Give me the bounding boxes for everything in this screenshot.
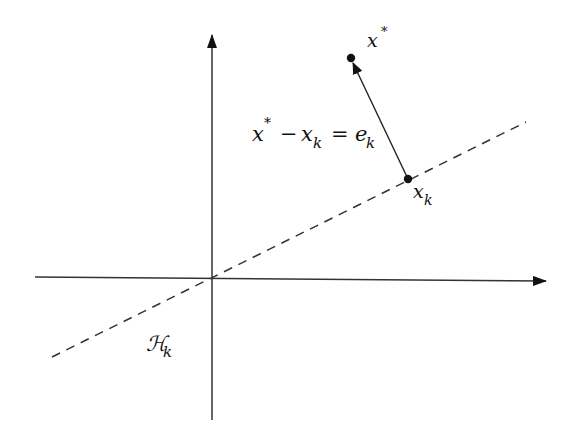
- iterate-label-base: x: [413, 180, 424, 202]
- solution-point-label: x *: [367, 24, 388, 51]
- iterate-point-label: x k: [413, 180, 432, 208]
- equation-xk-sub: k: [313, 134, 322, 152]
- hyperplane-dashed-line: [52, 122, 526, 357]
- hyperplane-label: ℋ k: [146, 332, 172, 361]
- equation-x: x: [252, 122, 264, 146]
- equation-star: *: [264, 115, 271, 131]
- iterate-label-sub: k: [424, 192, 432, 208]
- x-axis: [35, 277, 546, 281]
- equation-equals: =: [331, 122, 349, 146]
- solution-label-base: x: [367, 29, 378, 51]
- equation-xk: x: [301, 122, 313, 146]
- equation-ek-sub: k: [366, 134, 375, 152]
- hyperplane-label-sub: k: [163, 343, 172, 361]
- projection-diagram: x * x k x * − x k = e k ℋ k: [0, 0, 571, 439]
- solution-label-sup: *: [381, 24, 388, 39]
- equation-minus: −: [280, 122, 298, 146]
- solution-point-dot: [347, 54, 355, 62]
- error-equation: x * − x k = e k: [252, 115, 375, 152]
- iterate-point-dot: [404, 175, 412, 183]
- error-vector-arrow: [353, 63, 408, 179]
